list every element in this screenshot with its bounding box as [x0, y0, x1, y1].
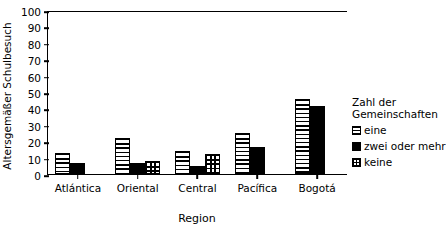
y-axis-tick-label: 50: [28, 88, 41, 100]
legend-items: einezwei oder mehrkeine: [352, 124, 427, 168]
y-axis-tick-label: 60: [28, 72, 41, 84]
x-axis-title: Region: [47, 212, 347, 225]
bar-group: Oriental: [108, 12, 168, 174]
y-axis-tick-label: 70: [28, 55, 41, 67]
y-axis-tick-label: 40: [28, 104, 41, 116]
legend: Zahl der Gemeinschaften einezwei oder me…: [352, 96, 427, 172]
y-axis-tick-label: 80: [28, 39, 41, 51]
y-axis-tick-label: 10: [28, 154, 41, 166]
x-axis-category-label: Oriental: [117, 182, 159, 194]
chart-title-cropped: [188, 0, 248, 3]
bar-keine[interactable]: [145, 161, 160, 174]
legend-item[interactable]: keine: [352, 156, 427, 168]
bar-zwei[interactable]: [130, 163, 145, 174]
bar-group: Pacífica: [227, 12, 287, 174]
legend-item[interactable]: zwei oder mehr: [352, 140, 427, 152]
legend-item-label: keine: [364, 156, 392, 168]
x-axis-category-label: Atlántica: [55, 182, 101, 194]
plot-area: 0102030405060708090100 AtlánticaOriental…: [47, 11, 347, 175]
bar-group: Bogotá: [287, 12, 347, 174]
bar-group: Central: [168, 12, 228, 174]
y-axis-tick-label: 20: [28, 137, 41, 149]
bar-keine[interactable]: [205, 154, 220, 174]
x-axis-tick-mark: [197, 174, 199, 179]
x-axis-tick-mark: [137, 174, 139, 179]
bar-zwei[interactable]: [250, 147, 265, 174]
bar-groups: AtlánticaOrientalCentralPacíficaBogotá: [48, 12, 347, 174]
y-axis-tick-label: 0: [34, 170, 41, 182]
legend-swatch-eine: [352, 126, 361, 135]
legend-swatch-keine: [352, 158, 361, 167]
y-axis-tick-mark: [44, 175, 49, 177]
x-axis-tick-mark: [316, 174, 318, 179]
x-axis-category-label: Pacífica: [237, 182, 277, 194]
x-axis-tick-mark: [256, 174, 258, 179]
bar-eine[interactable]: [55, 153, 70, 174]
bar-eine[interactable]: [175, 151, 190, 174]
bar-eine[interactable]: [235, 133, 250, 174]
bar-group: Atlántica: [48, 12, 108, 174]
legend-swatch-zwei: [352, 142, 361, 151]
x-axis-tick-mark: [77, 174, 79, 179]
x-axis-category-label: Bogotá: [298, 182, 335, 194]
legend-title-line-2: Gemeinschaften: [352, 108, 427, 120]
bar-eine[interactable]: [295, 99, 310, 174]
bar-zwei[interactable]: [190, 166, 205, 174]
y-axis-tick-label: 30: [28, 121, 41, 133]
legend-title-line-1: Zahl der: [352, 96, 427, 108]
y-axis-tick-label: 100: [21, 6, 41, 18]
x-axis-category-label: Central: [178, 182, 216, 194]
bar-zwei[interactable]: [310, 106, 325, 174]
bar-eine[interactable]: [115, 138, 130, 174]
legend-title: Zahl der Gemeinschaften: [352, 96, 427, 120]
legend-item-label: eine: [364, 124, 387, 136]
legend-item-label: zwei oder mehr: [364, 140, 446, 152]
y-axis-tick-label: 90: [28, 22, 41, 34]
legend-item[interactable]: eine: [352, 124, 427, 136]
y-axis-title: Altersgemäßer Schulbesuch: [1, 6, 13, 186]
bar-zwei[interactable]: [70, 163, 85, 174]
